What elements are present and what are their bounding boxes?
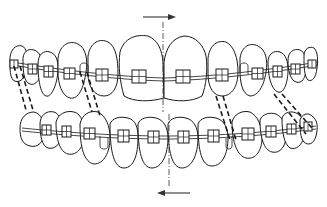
upper-shift-arrow xyxy=(143,14,176,20)
diagram-canvas: Orthodontic appliance with intermaxillar… xyxy=(0,0,327,207)
upper-bracket xyxy=(28,64,37,74)
arrow-left-icon xyxy=(157,190,165,196)
arrow-right-icon xyxy=(168,14,176,20)
lower-shift-arrow xyxy=(157,190,190,196)
upper-tooth-r1 xyxy=(164,36,207,101)
upper-tooth-l2 xyxy=(88,41,118,96)
lower-arch xyxy=(20,111,317,168)
upper-tooth-l1 xyxy=(119,36,164,101)
upper-bracket xyxy=(44,66,53,77)
upper-arch xyxy=(10,36,318,101)
braces-diagram xyxy=(0,0,327,207)
upper-bracket xyxy=(64,68,75,79)
lower-tooth-l2 xyxy=(110,117,138,168)
